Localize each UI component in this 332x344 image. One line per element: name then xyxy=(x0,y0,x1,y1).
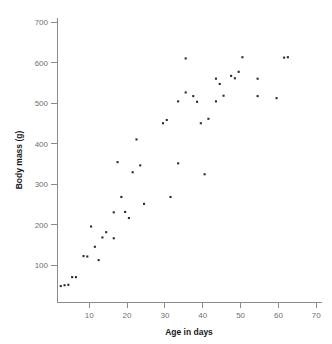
x-tick-label-60: 60 xyxy=(274,311,283,320)
data-point xyxy=(207,118,209,120)
figure-container: 700 600 500 400 300 200 100 10 20 30 40 xyxy=(0,0,332,344)
data-point xyxy=(75,276,77,278)
data-point xyxy=(117,161,119,163)
data-point xyxy=(82,255,84,257)
data-point xyxy=(60,285,62,287)
data-point xyxy=(192,95,194,97)
y-tick-label-300: 300 xyxy=(35,180,49,189)
data-point xyxy=(86,255,88,257)
y-tick-label-200: 200 xyxy=(35,221,49,230)
data-point xyxy=(143,203,145,205)
data-point xyxy=(241,56,243,58)
x-tick-label-70: 70 xyxy=(312,311,321,320)
data-point xyxy=(200,122,202,124)
data-point xyxy=(177,162,179,164)
data-point xyxy=(219,83,221,85)
data-point xyxy=(177,100,179,102)
data-point xyxy=(170,196,172,198)
data-point xyxy=(215,78,217,80)
x-tick-label-10: 10 xyxy=(85,311,94,320)
data-point xyxy=(64,284,66,286)
y-axis-title: Body mass (g) xyxy=(14,131,24,190)
y-tick-label-400: 400 xyxy=(35,140,49,149)
data-point xyxy=(257,78,259,80)
scatter-plot: 700 600 500 400 300 200 100 10 20 30 40 xyxy=(0,0,332,344)
data-point xyxy=(283,57,285,59)
data-point xyxy=(162,122,164,124)
y-tick-label-700: 700 xyxy=(35,18,49,27)
data-point xyxy=(135,138,137,140)
data-point xyxy=(98,259,100,261)
data-point xyxy=(215,100,217,102)
x-axis-title: Age in days xyxy=(165,327,213,337)
data-points-layer xyxy=(60,56,289,287)
y-tick-label-600: 600 xyxy=(35,59,49,68)
data-point xyxy=(132,171,134,173)
data-point xyxy=(67,284,69,286)
x-axis-ticks: 10 20 30 40 50 60 70 xyxy=(85,302,322,320)
data-point xyxy=(185,57,187,59)
data-point xyxy=(204,173,206,175)
data-point xyxy=(238,71,240,73)
data-point xyxy=(222,95,224,97)
data-point xyxy=(90,225,92,227)
data-point xyxy=(287,56,289,58)
data-point xyxy=(128,217,130,219)
data-point xyxy=(120,196,122,198)
y-axis-ticks: 700 600 500 400 300 200 100 xyxy=(35,18,57,270)
data-point xyxy=(94,246,96,248)
data-point xyxy=(230,75,232,77)
data-point xyxy=(275,97,277,99)
x-tick-label-20: 20 xyxy=(123,311,132,320)
data-point xyxy=(101,236,103,238)
data-point xyxy=(113,211,115,213)
y-tick-label-100: 100 xyxy=(35,261,49,270)
data-point xyxy=(234,77,236,79)
data-point xyxy=(166,119,168,121)
data-point xyxy=(113,237,115,239)
x-tick-label-50: 50 xyxy=(236,311,245,320)
y-tick-label-500: 500 xyxy=(35,99,49,108)
data-point xyxy=(185,91,187,93)
data-point xyxy=(196,101,198,103)
data-point xyxy=(105,231,107,233)
x-tick-label-40: 40 xyxy=(198,311,207,320)
x-tick-label-30: 30 xyxy=(160,311,169,320)
data-point xyxy=(71,276,73,278)
data-point xyxy=(124,211,126,213)
data-point xyxy=(257,95,259,97)
data-point xyxy=(139,164,141,166)
